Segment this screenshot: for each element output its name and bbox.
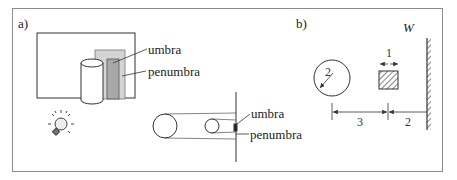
hatched-square	[379, 71, 398, 89]
shadow-scene	[37, 33, 147, 104]
scene-penumbra-label: penumbra	[148, 65, 200, 78]
cylinder-top	[81, 59, 103, 67]
figure-drawing	[0, 0, 457, 180]
light-bulb-icon	[48, 110, 74, 135]
umbra-region	[107, 59, 119, 99]
panel-b-label: b)	[296, 17, 307, 30]
wall	[427, 38, 431, 130]
scene-umbra-label: umbra	[148, 43, 181, 56]
panel-a-label: a)	[18, 17, 28, 30]
distance-2-label: 2	[405, 116, 411, 128]
eclipse-diagram	[153, 92, 250, 162]
wall-label: W	[403, 21, 414, 34]
square-width-label: 1	[386, 47, 392, 59]
geometry-diagram	[314, 38, 431, 130]
eclipse-umbra-label: umbra	[251, 107, 284, 120]
radius-label: 2	[325, 66, 331, 78]
eclipse-penumbra-label: penumbra	[250, 128, 302, 141]
circle-shape	[314, 60, 350, 96]
distance-3-label: 3	[357, 116, 363, 128]
